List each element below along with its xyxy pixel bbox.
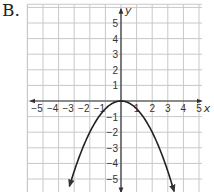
y-tick-label: −2 — [107, 127, 119, 138]
y-axis-label: y — [124, 4, 132, 17]
y-tick-label: −3 — [107, 143, 119, 154]
y-tick-label: 5 — [112, 18, 118, 29]
x-tick-label: 5 — [196, 103, 202, 114]
y-tick-label: −1 — [107, 112, 119, 123]
x-tick-label: −3 — [62, 103, 74, 114]
x-axis-label: x — [203, 102, 211, 115]
y-tick-label: 3 — [112, 49, 118, 60]
y-tick-label: 1 — [112, 80, 118, 91]
x-tick-label: −2 — [78, 103, 90, 114]
x-tick-label: −1 — [94, 103, 106, 114]
y-tick-label: 2 — [112, 65, 118, 76]
x-tick-label: 2 — [149, 103, 155, 114]
x-tick-label: −5 — [31, 103, 43, 114]
x-tick-label: 3 — [165, 103, 171, 114]
parabola-curve — [70, 101, 175, 191]
x-tick-label: 4 — [181, 103, 187, 114]
y-tick-label: −4 — [107, 158, 119, 169]
x-tick-label: −4 — [47, 103, 59, 114]
y-tick-label: −5 — [107, 174, 119, 185]
parabola-graph: −5−4−3−2−11234554321−1−2−3−4−5xy — [0, 0, 214, 192]
y-tick-label: 4 — [112, 34, 118, 45]
